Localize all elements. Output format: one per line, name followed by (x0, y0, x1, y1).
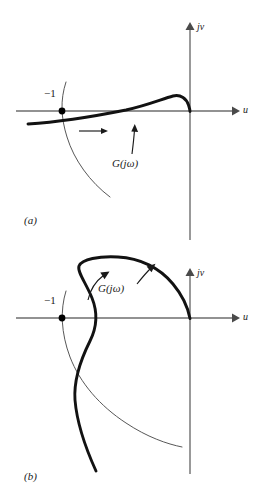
panel-a-critical-point-dot (59, 108, 66, 115)
panel-b-imag-axis-arrowhead (186, 268, 195, 276)
panel-a-callout-arrow-icon (131, 124, 138, 154)
panel-a-curve-label: G(jω) (112, 158, 138, 169)
panel-b-critical-point-label: −1 (44, 295, 56, 306)
panel-a-group (16, 22, 240, 240)
panel-a-gjw-locus (28, 96, 190, 124)
panel-b-callout-arrow-icon (137, 264, 156, 284)
panel-b-real-axis-label: u (243, 312, 248, 322)
figure-canvas (0, 0, 260, 498)
panel-b-caption: (b) (24, 471, 37, 482)
panel-a-direction-arrow-icon (79, 128, 108, 134)
nyquist-figure: −1 G(jω) u jv (a) −1 G(jω) u jv (b) (0, 0, 260, 498)
panel-b-critical-point-dot (59, 315, 66, 322)
panel-a-real-axis-arrowhead (232, 107, 240, 116)
panel-a-critical-point-label: −1 (44, 88, 56, 99)
panel-b-curve-label: G(jω) (98, 283, 124, 294)
panel-a-imag-axis-arrowhead (186, 22, 195, 30)
panel-b-imag-axis-label: jv (197, 268, 204, 278)
panel-a-mirror-locus (62, 82, 110, 197)
panel-b-group (16, 257, 240, 474)
panel-a-caption: (a) (24, 215, 37, 226)
panel-a-real-axis-label: u (243, 105, 248, 115)
panel-b-real-axis-arrowhead (232, 314, 240, 323)
panel-a-imag-axis-label: jv (197, 22, 204, 32)
